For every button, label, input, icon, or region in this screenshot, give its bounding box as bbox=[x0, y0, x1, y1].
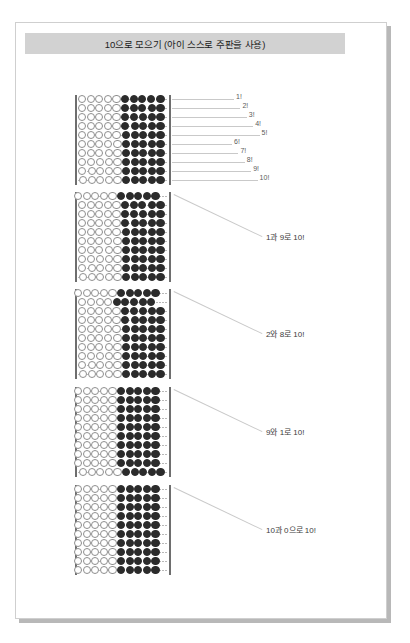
filled-bead[interactable] bbox=[131, 361, 139, 369]
filled-bead[interactable] bbox=[117, 566, 125, 574]
filled-bead[interactable] bbox=[148, 237, 156, 245]
filled-bead[interactable] bbox=[148, 334, 156, 342]
filled-bead[interactable] bbox=[134, 192, 142, 200]
filled-bead[interactable] bbox=[117, 441, 125, 449]
filled-bead[interactable] bbox=[139, 370, 147, 378]
empty-bead[interactable] bbox=[74, 396, 82, 404]
filled-bead[interactable] bbox=[148, 210, 156, 218]
empty-bead[interactable] bbox=[74, 441, 82, 449]
filled-bead[interactable] bbox=[156, 228, 164, 236]
abacus-row[interactable] bbox=[78, 289, 168, 298]
filled-bead[interactable] bbox=[126, 557, 134, 565]
empty-bead[interactable] bbox=[108, 192, 116, 200]
empty-bead[interactable] bbox=[83, 539, 91, 547]
filled-bead[interactable] bbox=[131, 140, 139, 148]
empty-bead[interactable] bbox=[83, 387, 91, 395]
filled-bead[interactable] bbox=[131, 255, 139, 263]
filled-bead[interactable] bbox=[156, 468, 164, 476]
empty-bead[interactable] bbox=[74, 494, 82, 502]
empty-bead[interactable] bbox=[100, 414, 108, 422]
empty-bead[interactable] bbox=[87, 122, 95, 130]
filled-bead[interactable] bbox=[121, 104, 129, 112]
abacus-row[interactable] bbox=[78, 548, 168, 557]
filled-bead[interactable] bbox=[151, 539, 159, 547]
filled-bead[interactable] bbox=[156, 343, 164, 351]
abacus-row[interactable] bbox=[78, 104, 168, 113]
filled-bead[interactable] bbox=[143, 192, 151, 200]
empty-bead[interactable] bbox=[83, 289, 91, 297]
empty-bead[interactable] bbox=[78, 131, 86, 139]
filled-bead[interactable] bbox=[156, 95, 164, 103]
empty-bead[interactable] bbox=[96, 361, 104, 369]
empty-bead[interactable] bbox=[74, 530, 82, 538]
abacus-row[interactable] bbox=[78, 521, 168, 530]
filled-bead[interactable] bbox=[117, 414, 125, 422]
empty-bead[interactable] bbox=[87, 255, 95, 263]
empty-bead[interactable] bbox=[91, 566, 99, 574]
empty-bead[interactable] bbox=[96, 352, 104, 360]
filled-bead[interactable] bbox=[151, 387, 159, 395]
empty-bead[interactable] bbox=[105, 176, 113, 184]
filled-bead[interactable] bbox=[143, 485, 151, 493]
filled-bead[interactable] bbox=[139, 468, 147, 476]
empty-bead[interactable] bbox=[104, 298, 112, 306]
filled-bead[interactable] bbox=[139, 246, 147, 254]
filled-bead[interactable] bbox=[151, 548, 159, 556]
empty-bead[interactable] bbox=[95, 334, 103, 342]
filled-bead[interactable] bbox=[131, 468, 139, 476]
empty-bead[interactable] bbox=[74, 192, 82, 200]
empty-bead[interactable] bbox=[95, 246, 103, 254]
filled-bead[interactable] bbox=[156, 201, 164, 209]
empty-bead[interactable] bbox=[87, 237, 95, 245]
empty-bead[interactable] bbox=[108, 396, 116, 404]
empty-bead[interactable] bbox=[108, 405, 116, 413]
filled-bead[interactable] bbox=[126, 494, 134, 502]
empty-bead[interactable] bbox=[74, 423, 82, 431]
empty-bead[interactable] bbox=[87, 246, 95, 254]
empty-bead[interactable] bbox=[100, 192, 108, 200]
filled-bead[interactable] bbox=[121, 219, 129, 227]
filled-bead[interactable] bbox=[143, 414, 151, 422]
empty-bead[interactable] bbox=[96, 468, 104, 476]
empty-bead[interactable] bbox=[112, 219, 120, 227]
empty-bead[interactable] bbox=[78, 149, 86, 157]
abacus-row[interactable] bbox=[78, 503, 168, 512]
filled-bead[interactable] bbox=[134, 289, 142, 297]
empty-bead[interactable] bbox=[95, 228, 103, 236]
empty-bead[interactable] bbox=[113, 468, 121, 476]
empty-bead[interactable] bbox=[95, 149, 103, 157]
empty-bead[interactable] bbox=[104, 307, 112, 315]
empty-bead[interactable] bbox=[83, 503, 91, 511]
empty-bead[interactable] bbox=[113, 370, 121, 378]
filled-bead[interactable] bbox=[117, 530, 125, 538]
empty-bead[interactable] bbox=[91, 396, 99, 404]
filled-bead[interactable] bbox=[156, 149, 164, 157]
empty-bead[interactable] bbox=[100, 485, 108, 493]
empty-bead[interactable] bbox=[79, 370, 87, 378]
empty-bead[interactable] bbox=[95, 307, 103, 315]
empty-bead[interactable] bbox=[78, 113, 86, 121]
filled-bead[interactable] bbox=[117, 432, 125, 440]
filled-bead[interactable] bbox=[148, 343, 156, 351]
filled-bead[interactable] bbox=[121, 122, 129, 130]
filled-bead[interactable] bbox=[122, 131, 130, 139]
filled-bead[interactable] bbox=[131, 176, 139, 184]
empty-bead[interactable] bbox=[113, 352, 121, 360]
abacus-row[interactable] bbox=[78, 273, 168, 282]
empty-bead[interactable] bbox=[113, 361, 121, 369]
filled-bead[interactable] bbox=[148, 122, 156, 130]
abacus-row[interactable] bbox=[78, 539, 168, 548]
filled-bead[interactable] bbox=[139, 122, 147, 130]
filled-bead[interactable] bbox=[151, 441, 159, 449]
empty-bead[interactable] bbox=[100, 539, 108, 547]
filled-bead[interactable] bbox=[134, 405, 142, 413]
empty-bead[interactable] bbox=[112, 131, 120, 139]
abacus-row[interactable] bbox=[78, 219, 168, 228]
empty-bead[interactable] bbox=[91, 521, 99, 529]
empty-bead[interactable] bbox=[91, 289, 99, 297]
empty-bead[interactable] bbox=[112, 316, 120, 324]
filled-bead[interactable] bbox=[134, 441, 142, 449]
filled-bead[interactable] bbox=[134, 530, 142, 538]
abacus-row[interactable] bbox=[78, 432, 168, 441]
empty-bead[interactable] bbox=[104, 334, 112, 342]
